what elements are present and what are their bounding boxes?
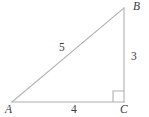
triangle-outline	[12, 8, 124, 102]
side-length-hypotenuse: 5	[59, 42, 65, 54]
side-length-vertical-leg: 3	[131, 51, 137, 63]
hypotenuse-line	[12, 8, 124, 102]
vertex-label-c: C	[120, 104, 128, 116]
vertex-label-a: A	[5, 104, 12, 116]
side-length-base: 4	[71, 104, 77, 116]
right-angle-marker-icon	[113, 91, 124, 102]
vertex-label-b: B	[133, 1, 140, 13]
triangle-svg	[0, 0, 149, 117]
